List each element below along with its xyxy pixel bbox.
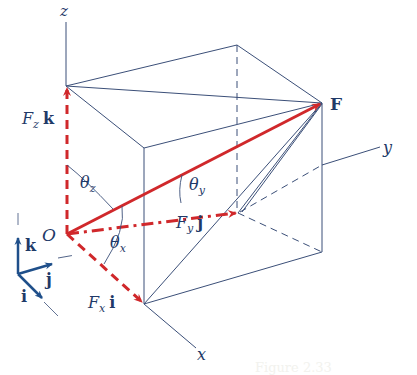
origin-label: O xyxy=(42,225,56,245)
force-vector-F xyxy=(67,104,320,234)
figure-caption: Figure 2.33 xyxy=(255,360,332,375)
theta-y-label: θy xyxy=(189,175,206,197)
y-axis-label: y xyxy=(382,138,393,157)
force-label: F xyxy=(330,94,342,114)
i-unit-label: i xyxy=(21,287,27,306)
fz-label: Fzk xyxy=(21,109,55,131)
component-fy-arrow xyxy=(67,213,236,234)
z-axis-label: z xyxy=(59,2,68,20)
y-axis-line xyxy=(322,147,380,165)
theta-y-arc xyxy=(180,175,182,203)
fx-label: Fxi xyxy=(87,293,115,315)
force-vector-diagram: z y x F O Fzk Fxi Fyj θz θx θy k j i Fig… xyxy=(0,0,417,375)
hidden-edges xyxy=(237,45,322,252)
fy-label: Fyj xyxy=(175,213,203,235)
k-unit-label: k xyxy=(25,236,37,255)
theta-z-label: θz xyxy=(80,173,96,195)
x-axis-line xyxy=(144,304,196,348)
theta-x-label: θx xyxy=(110,233,127,255)
x-axis-label: x xyxy=(197,345,206,364)
vector-components xyxy=(67,88,320,302)
j-unit-label: j xyxy=(44,270,52,289)
component-fx-arrow xyxy=(67,234,142,302)
